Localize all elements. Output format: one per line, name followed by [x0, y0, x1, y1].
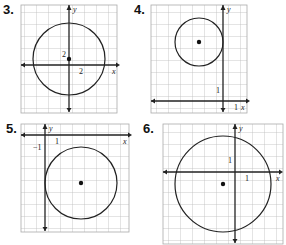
x-axis-label: x: [275, 174, 280, 183]
y-tick-label: −1: [33, 143, 42, 152]
y-tick-label: 1: [216, 86, 220, 95]
x-tick-label: 2: [79, 67, 83, 76]
x-axis-label: x: [122, 137, 127, 146]
center-point: [67, 57, 71, 61]
center-point: [197, 40, 201, 44]
x-axis-label: x: [111, 67, 116, 76]
y-axis-label: y: [238, 124, 243, 133]
x-tick-label: 1: [55, 137, 59, 146]
y-axis-label: y: [226, 5, 231, 14]
graph-5: y x −1 1: [21, 124, 132, 232]
graph-6: y x 1 1: [163, 124, 283, 244]
x-axis-label: x: [240, 103, 245, 112]
y-axis-label: y: [48, 124, 53, 133]
center-point: [221, 182, 225, 186]
y-tick-label: 1: [228, 156, 232, 165]
center-point: [79, 181, 83, 185]
x-tick-label: 1: [234, 103, 238, 112]
y-axis-label: y: [72, 5, 77, 14]
graph-4: y x 1 1: [151, 5, 250, 113]
x-tick-label: 1: [245, 174, 249, 183]
y-tick-label: 2: [62, 50, 66, 59]
graph-3: y x 2 2: [21, 5, 120, 113]
graphs-canvas: y x 2 2 y x 1 1 y x −1 1: [0, 0, 286, 245]
